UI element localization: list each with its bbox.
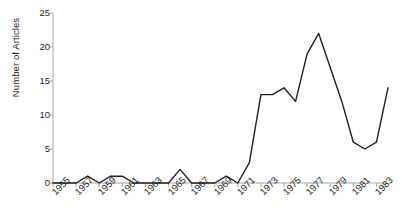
x-tick-label: 1977 xyxy=(304,175,326,197)
x-tick-label: 1979 xyxy=(327,175,349,197)
x-tick-label: 1983 xyxy=(373,175,395,197)
x-tick-label: 1961 xyxy=(119,175,141,197)
x-tick-label: 1959 xyxy=(96,175,118,197)
x-tick-label: 1969 xyxy=(212,175,234,197)
x-tick-label: 1981 xyxy=(350,175,372,197)
x-tick-label: 1963 xyxy=(142,175,164,197)
x-tick-label: 1967 xyxy=(189,175,211,197)
x-tick-label: 1973 xyxy=(258,175,280,197)
x-tick-label: 1971 xyxy=(235,175,257,197)
x-axis-tick-labels: 1955195719591961196319651967196919711973… xyxy=(0,0,402,222)
x-tick-label: 1957 xyxy=(73,175,95,197)
x-tick-label: 1965 xyxy=(166,175,188,197)
x-tick-label: 1955 xyxy=(50,175,72,197)
chart-container: Number of Articles 25 20 15 10 5 0 19551… xyxy=(0,0,402,222)
x-tick-label: 1975 xyxy=(281,175,303,197)
